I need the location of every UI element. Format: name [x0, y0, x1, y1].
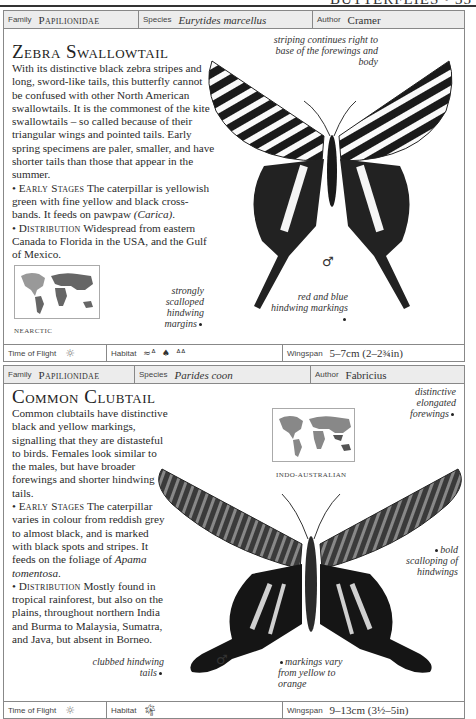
species-cell: Species Eurytides marcellus: [139, 11, 313, 28]
family-cell: Family Papilionidae: [4, 11, 139, 28]
distribution-paragraph: • Distribution Widespread from eastern C…: [12, 222, 215, 262]
time-of-flight-cell: Time of Flight ☼: [4, 702, 107, 718]
annotation-elongated-forewings: distinctive elongated forewings: [394, 386, 456, 419]
early-stages-heading: Early Stages: [19, 182, 85, 194]
facts-bar: Time of Flight ☼ Habitat ≈ᐞ ♠ ᐞᐞ Wingspa…: [4, 344, 464, 361]
annotation-red-blue-markings: red and blue hindwing markings: [266, 291, 348, 324]
annotation-bold-scalloping: bold scalloping of hindwings: [396, 544, 458, 577]
common-name-title: Common Clubtail: [12, 387, 155, 406]
distribution-heading: Distribution: [19, 580, 81, 592]
map-region-label: NEARCTIC: [14, 327, 52, 335]
male-symbol: ♂: [216, 652, 228, 667]
wetland-icon: ≈ᐞ: [143, 348, 155, 358]
species-entry-zebra-swallowtail: Family Papilionidae Species Eurytides ma…: [3, 10, 465, 362]
classification-bar: Family Papilionidae Species Eurytides ma…: [4, 11, 464, 29]
sun-icon: ☼: [65, 347, 75, 360]
habitat-label: Habitat: [111, 706, 136, 715]
time-of-flight-cell: Time of Flight ☼: [4, 345, 107, 361]
distribution-heading: Distribution: [19, 222, 81, 234]
wingspan-cell: Wingspan 5–7cm (2–2¾in): [283, 345, 464, 361]
wingspan-cell: Wingspan 9–13cm (3½–5in): [283, 702, 464, 718]
author-value: Cramer: [348, 14, 381, 26]
page-header: BUTTERFLIES • 35: [0, 0, 476, 8]
author-value: Fabricius: [346, 369, 387, 381]
species-entry-common-clubtail: Family Papilionidae Species Parides coon…: [3, 365, 465, 719]
male-symbol: ♂: [322, 254, 334, 269]
family-label: Family: [8, 15, 32, 24]
early-stages-heading: Early Stages: [19, 500, 85, 512]
annotation-markings-vary: markings vary from yellow to orange: [278, 656, 350, 689]
wingspan-label: Wingspan: [287, 706, 323, 715]
distribution-paragraph: • Distribution Mostly found in tropical …: [12, 580, 170, 646]
sun-icon: ☼: [65, 704, 75, 717]
author-cell: Author Cramer: [313, 11, 464, 28]
annotation-striping: striping continues right to base of the …: [268, 34, 378, 67]
species-description: With its distinctive black zebra stripes…: [12, 62, 215, 261]
species-cell: Species Parides coon: [135, 366, 311, 383]
grassland-icon: ᐞᐞ: [176, 348, 186, 358]
time-of-flight-label: Time of Flight: [8, 706, 56, 715]
habitat-label: Habitat: [111, 349, 136, 358]
family-cell: Family Papilionidae: [4, 366, 135, 383]
species-label: Species: [143, 15, 171, 24]
family-value: Papilionidae: [39, 369, 100, 381]
classification-bar: Family Papilionidae Species Parides coon…: [4, 366, 464, 384]
author-label: Author: [317, 15, 341, 24]
early-stages-paragraph: • Early Stages The caterpillar varies in…: [12, 500, 170, 580]
author-cell: Author Fabricius: [311, 366, 464, 383]
wingspan-value: 5–7cm (2–2¾in): [330, 347, 403, 359]
family-value: Papilionidae: [39, 14, 100, 26]
habitat-cell: Habitat 🌴︎: [107, 702, 283, 718]
world-map-icon: [15, 266, 101, 320]
intro-paragraph: Common clubtails have distinctive black …: [12, 407, 170, 500]
early-stages-paragraph: • Early Stages The caterpillar is yellow…: [12, 182, 215, 222]
family-label: Family: [8, 370, 32, 379]
zebra-swallowtail-illustration: [204, 41, 459, 321]
tree-icon: ♠: [162, 348, 170, 358]
annotation-scalloped-margins: strongly scalloped hindwing margins: [144, 285, 204, 329]
wingspan-label: Wingspan: [287, 349, 323, 358]
species-description: Common clubtails have distinctive black …: [12, 407, 170, 646]
wingspan-value: 9–13cm (3½–5in): [330, 704, 409, 716]
facts-bar: Time of Flight ☼ Habitat 🌴︎ Wingspan 9–1…: [4, 701, 464, 718]
distribution-map: [14, 265, 100, 319]
time-of-flight-label: Time of Flight: [8, 349, 56, 358]
common-name-title: Zebra Swallowtail: [12, 42, 168, 61]
annotation-clubbed-tails: clubbed hindwing tails: [92, 656, 164, 678]
species-value: Parides coon: [174, 369, 232, 381]
species-label: Species: [139, 370, 167, 379]
author-label: Author: [315, 370, 339, 379]
species-value: Eurytides marcellus: [178, 14, 266, 26]
intro-paragraph: With its distinctive black zebra stripes…: [12, 62, 215, 182]
palm-tree-icon: 🌴︎: [143, 704, 157, 717]
habitat-cell: Habitat ≈ᐞ ♠ ᐞᐞ: [107, 345, 283, 361]
running-head: BUTTERFLIES • 35: [330, 0, 472, 8]
